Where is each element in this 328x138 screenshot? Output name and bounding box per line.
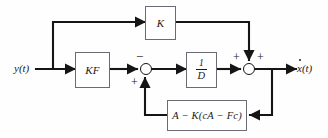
wire-feedback-to-sum1: [145, 78, 167, 115]
summing-junction-2: [243, 63, 255, 75]
overdot-icon: [299, 59, 301, 61]
summing-junction-1: [140, 63, 152, 75]
sum1-plus-sign: +: [131, 76, 138, 88]
wire-output-branch-to-feedback: [250, 69, 272, 115]
block-one-over-d: 1 D: [186, 52, 217, 88]
block-k: K: [145, 6, 176, 40]
output-label-text: x(t): [297, 62, 312, 74]
output-signal-label: x(t): [297, 62, 312, 74]
sum1-minus-sign: −: [136, 50, 143, 63]
sum2-plus-sign-right: +: [257, 51, 264, 63]
block-kf: KF: [75, 52, 110, 88]
block-feedback-gain: A − K(cA − Fc): [167, 100, 247, 131]
fraction-numerator: 1: [199, 59, 204, 69]
fraction-one-over-d: 1 D: [196, 59, 207, 81]
fraction-denominator: D: [198, 70, 206, 81]
output-x-with-dot: x(t): [297, 62, 312, 74]
sum2-plus-sign-left: +: [233, 51, 240, 63]
block-diagram: y(t) x(t) K KF 1 D A − K(cA − Fc) − + + …: [0, 0, 328, 138]
input-signal-label: y(t): [14, 62, 29, 74]
